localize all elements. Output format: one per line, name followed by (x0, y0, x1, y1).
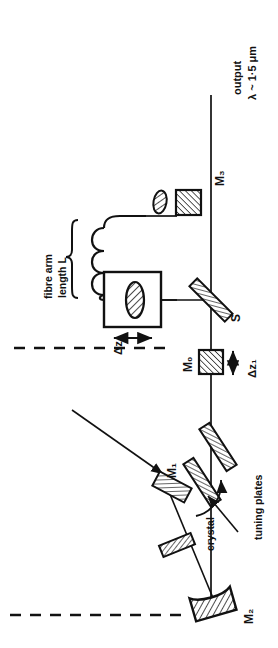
beamsplitter-s-label: S (230, 314, 243, 322)
tuning-plates-label: tuning plates (253, 475, 264, 540)
fibre-arm-label-line2: length L (57, 257, 68, 298)
mirror-m2-label: M₂ (243, 609, 256, 624)
delta-z2-label: Δz₂ (112, 336, 124, 355)
mirror-m0-label: M₀ (182, 357, 195, 372)
wavelength-label: λ ~ 1·5 μm (247, 46, 259, 100)
fibre-end-element (152, 190, 169, 215)
mirror-m3 (176, 190, 201, 215)
crystal-label: crystal (205, 517, 216, 551)
mirror-m2 (190, 587, 237, 622)
tuning-plate-1 (199, 423, 236, 471)
translation-stage-z2 (104, 272, 177, 327)
delta-z1-label: Δz₁ (246, 359, 258, 378)
mirror-m0 (199, 350, 223, 374)
fibre-arm-label-line1: fibre arm (43, 254, 54, 299)
mirror-m3-label: M₃ (214, 170, 227, 186)
mirror-m1-label: M₁ (166, 463, 179, 478)
tuning-plate-2 (183, 458, 220, 506)
optical-diagram (0, 0, 278, 648)
laser-crystal (159, 533, 195, 557)
figure-canvas: output λ ~ 1·5 μm M₃ fibre arm length L … (0, 0, 278, 648)
beam-folded-arm (72, 410, 213, 598)
output-label: output (232, 61, 244, 95)
